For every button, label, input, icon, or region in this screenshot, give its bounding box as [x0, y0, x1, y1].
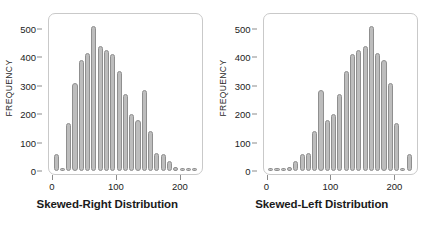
y-tick-label: 400: [20, 52, 36, 63]
bar: [325, 120, 330, 171]
y-tick-label: 500: [235, 23, 251, 34]
bar: [123, 94, 128, 171]
bar: [388, 83, 393, 171]
y-tick-label: 200: [235, 109, 251, 120]
y-tick-label: 100: [20, 137, 36, 148]
bar: [369, 26, 374, 171]
x-tick-mark: [52, 175, 53, 180]
y-tick-mark: [252, 171, 257, 172]
bars-left: [53, 23, 198, 171]
y-tick-mark: [37, 114, 42, 115]
y-axis-title-left-text: FREQUENCY: [4, 59, 14, 116]
y-tick-label: 200: [20, 109, 36, 120]
x-tick-label: 100: [108, 181, 124, 192]
bar: [54, 154, 59, 171]
bar: [300, 154, 305, 171]
x-tick-mark: [116, 175, 117, 180]
y-tick-mark: [37, 142, 42, 143]
y-tick-label: 0: [31, 166, 36, 177]
bar: [85, 53, 90, 171]
y-tick-label: 0: [245, 166, 250, 177]
bar: [318, 90, 323, 171]
x-tick-label: 0: [264, 181, 269, 192]
panel-title-left: Skewed-Right Distribution: [0, 198, 215, 210]
bar: [344, 71, 349, 171]
y-tick-mark: [252, 114, 257, 115]
bar: [337, 94, 342, 171]
bar: [350, 54, 355, 171]
bar: [312, 131, 317, 171]
bar: [400, 168, 405, 171]
y-tick-mark: [37, 171, 42, 172]
bar: [394, 123, 399, 171]
x-tick-label: 0: [49, 181, 54, 192]
bar: [306, 153, 311, 172]
y-tick-label: 300: [20, 80, 36, 91]
bar: [72, 83, 77, 171]
x-tick-label: 200: [172, 181, 188, 192]
bar: [66, 123, 71, 171]
bar: [98, 46, 103, 171]
bar: [91, 26, 96, 171]
plot-area-right: [263, 13, 418, 175]
bar: [129, 114, 134, 171]
panel-title-right: Skewed-Left Distribution: [215, 198, 429, 210]
x-tick-mark: [394, 175, 395, 180]
bar: [268, 168, 273, 171]
x-tick-mark: [180, 175, 181, 180]
y-tick-label: 300: [235, 80, 251, 91]
bar: [117, 71, 122, 171]
y-tick-label: 100: [235, 137, 251, 148]
bar: [281, 168, 286, 171]
bar: [407, 154, 412, 171]
bar: [154, 153, 159, 172]
bar: [186, 168, 191, 171]
bar: [161, 154, 166, 171]
bar: [135, 120, 140, 171]
bar: [148, 131, 153, 171]
x-tick-mark: [330, 175, 331, 180]
y-tick-mark: [252, 142, 257, 143]
bar: [173, 167, 178, 171]
y-tick-label: 500: [20, 23, 36, 34]
bar: [110, 54, 115, 171]
x-tick-label: 200: [386, 181, 402, 192]
bar: [79, 60, 84, 171]
y-tick-mark: [252, 85, 257, 86]
bar: [375, 53, 380, 171]
bar: [192, 168, 197, 171]
bar: [356, 50, 361, 171]
panel-skewed-left: FREQUENCY 0100200300400500 0100200 Skewe…: [215, 0, 429, 231]
bars-right: [268, 23, 413, 171]
bar: [331, 114, 336, 171]
bar: [363, 46, 368, 171]
bar: [104, 50, 109, 171]
bar: [60, 168, 65, 171]
y-tick-mark: [37, 28, 42, 29]
bar: [180, 168, 185, 171]
bar: [287, 167, 292, 171]
bar: [167, 161, 172, 171]
y-tick-mark: [37, 57, 42, 58]
x-axis-ticks-left: 0100200: [48, 175, 203, 195]
y-tick-mark: [252, 57, 257, 58]
bar: [293, 161, 298, 171]
y-axis-title-right-text: FREQUENCY: [219, 59, 229, 116]
bar: [274, 168, 279, 171]
x-tick-mark: [267, 175, 268, 180]
y-axis-ticks-left: 0100200300400500: [14, 14, 42, 174]
y-axis-ticks-right: 0100200300400500: [229, 14, 257, 174]
plot-area-left: [48, 13, 203, 175]
y-tick-mark: [252, 28, 257, 29]
x-axis-ticks-right: 0100200: [263, 175, 418, 195]
panel-skewed-right: FREQUENCY 0100200300400500 0100200 Skewe…: [0, 0, 215, 231]
bar: [142, 90, 147, 171]
x-tick-label: 100: [322, 181, 338, 192]
y-tick-mark: [37, 85, 42, 86]
y-tick-label: 400: [235, 52, 251, 63]
bar: [381, 60, 386, 171]
histogram-figure: FREQUENCY 0100200300400500 0100200 Skewe…: [0, 0, 429, 231]
